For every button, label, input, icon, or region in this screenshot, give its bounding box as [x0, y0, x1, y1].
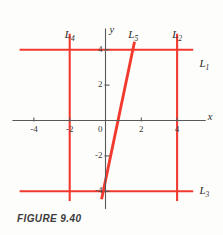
y-tick-label-neg4: -4 [95, 186, 103, 195]
line-label-l3: L3 [199, 185, 209, 199]
x-axis-label: x [208, 112, 213, 123]
line-label-l2: L2 [172, 29, 182, 43]
line-label-l5: L5 [128, 29, 138, 43]
line-label-l1: L1 [199, 58, 209, 72]
line-label-subscript: 3 [206, 190, 210, 199]
line-label-subscript: 2 [178, 35, 182, 44]
x-tick-label-neg4: -4 [30, 125, 38, 134]
lines-group [20, 34, 194, 201]
y-tick-label-2: 2 [98, 80, 103, 89]
x-tick-label-neg2: -2 [66, 125, 74, 134]
figure-container: L4 L5 L2 L1 L3 x y -4-22442-2-40 FIGURE … [0, 0, 223, 235]
origin-label: 0 [98, 125, 103, 134]
line-label-subscript: 5 [134, 35, 138, 44]
line-label-subscript: 1 [206, 63, 210, 72]
x-tick-label-4: 4 [175, 125, 180, 134]
line-label-l4: L4 [65, 29, 75, 43]
y-tick-label-4: 4 [98, 45, 103, 54]
y-tick-label-neg2: -2 [95, 151, 103, 160]
line-label-subscript: 4 [71, 35, 75, 44]
x-tick-label-2: 2 [139, 125, 144, 134]
figure-caption: FIGURE 9.40 [17, 213, 81, 224]
y-axis-label: y [110, 25, 115, 36]
